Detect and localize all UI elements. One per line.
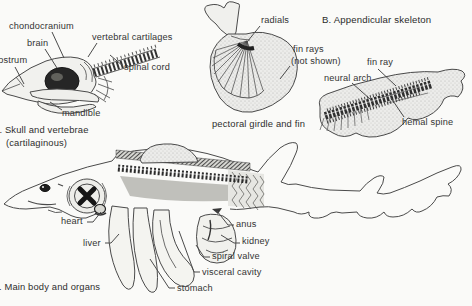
label-spiral-valve: spiral valve bbox=[212, 251, 260, 261]
label-anus: anus bbox=[236, 219, 257, 229]
label-vertebral-cartilages: vertebral cartilages bbox=[92, 32, 173, 42]
label-liver: liver bbox=[83, 238, 101, 248]
caption-pectoral-girdle: pectoral girdle and fin bbox=[212, 119, 305, 129]
label-fin-ray: fin ray bbox=[367, 57, 393, 67]
label-mandible: mandible bbox=[62, 108, 100, 118]
label-fin-rays-note: (not shown) bbox=[291, 56, 341, 66]
figure-canvas: chondocranium brain rostrum vertebral ca… bbox=[0, 0, 472, 306]
label-visceral-cavity: visceral cavity bbox=[202, 267, 261, 277]
caption-a-line1: A. Skull and vertebrae bbox=[0, 125, 89, 135]
caption-a-line2: (cartilaginous) bbox=[6, 138, 67, 148]
label-rostrum: rostrum bbox=[0, 55, 27, 65]
label-fin-rays: fin rays bbox=[293, 44, 324, 54]
label-chondrocranium: chondocranium bbox=[9, 21, 74, 31]
label-neural-arch: neural arch bbox=[324, 73, 372, 83]
label-brain: brain bbox=[27, 38, 48, 48]
label-spinal-cord: spinal cord bbox=[124, 62, 170, 72]
label-stomach: stomach bbox=[177, 283, 213, 293]
heading-b-appendicular-skeleton: B. Appendicular skeleton bbox=[322, 15, 431, 25]
caption-c-main-body: C. Main body and organs bbox=[0, 282, 100, 292]
label-kidney: kidney bbox=[242, 236, 269, 246]
label-heart: heart bbox=[61, 216, 83, 226]
label-hemal-spine: hemal spine bbox=[402, 117, 453, 127]
label-radials: radials bbox=[261, 15, 289, 25]
